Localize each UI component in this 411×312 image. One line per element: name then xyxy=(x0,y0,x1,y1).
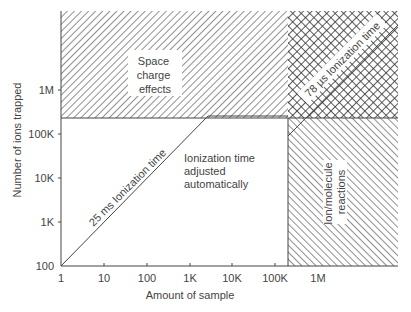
svg-text:100: 100 xyxy=(36,260,54,272)
svg-text:1M: 1M xyxy=(39,84,54,96)
svg-text:100K: 100K xyxy=(262,272,288,284)
svg-text:1: 1 xyxy=(58,272,64,284)
svg-text:1M: 1M xyxy=(310,272,325,284)
svg-text:1K: 1K xyxy=(183,272,197,284)
adjusted-label: Ionization time adjusted automatically xyxy=(184,152,258,190)
x-axis-title: Amount of sample xyxy=(146,289,235,301)
y-axis-title: Number of ions trapped xyxy=(11,83,23,198)
ionization-curve xyxy=(61,116,288,266)
svg-text:1K: 1K xyxy=(41,216,55,228)
ion-trap-diagram: Space charge effects 78 µs Ionization ti… xyxy=(0,0,411,312)
svg-text:10K: 10K xyxy=(222,272,242,284)
space-charge-label: Space charge effects xyxy=(137,55,174,95)
svg-text:100K: 100K xyxy=(28,128,54,140)
svg-text:100: 100 xyxy=(138,272,156,284)
x-tick-labels: 1 10 100 1K 10K 100K 1M xyxy=(58,272,326,284)
y-tick-labels: 100 1K 10K 100K 1M xyxy=(28,84,54,272)
slow-ionization-label: 25 ms Ionization time xyxy=(86,146,168,228)
svg-text:10: 10 xyxy=(98,272,110,284)
svg-text:10K: 10K xyxy=(34,172,54,184)
